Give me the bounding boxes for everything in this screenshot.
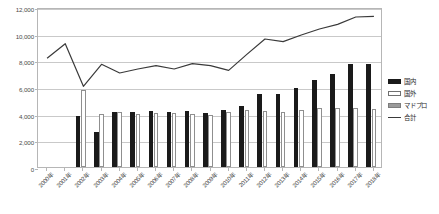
line-path-total	[47, 16, 374, 86]
legend-item-kokugai: 国外	[388, 88, 438, 99]
x-axis-tick	[337, 168, 338, 171]
x-axis-tick-label: 2001年	[54, 170, 73, 189]
legend-label: 国内	[404, 77, 416, 86]
legend-label: 合計	[404, 113, 416, 122]
x-axis: 2000年2001年2002年2003年2004年2005年2006年2007年…	[37, 170, 382, 214]
x-axis-tick-label: 2012年	[254, 170, 273, 189]
chart-container: 12,00010,0008,0006,0004,0002,0000 2000年2…	[0, 0, 439, 214]
x-axis-tick	[210, 168, 211, 171]
x-axis-tick-label: 2017年	[345, 170, 364, 189]
x-axis-tick-label: 2004年	[109, 170, 128, 189]
plot-area: 12,00010,0008,0006,0004,0002,0000	[37, 8, 382, 168]
chart-legend: 国内 国外 マドプロ 合計	[388, 76, 438, 124]
legend-swatch-bar-gray-icon	[388, 103, 401, 108]
x-axis-tick	[101, 168, 102, 171]
y-axis-tick-label: 2,000	[19, 139, 34, 146]
y-axis-tick-label: 12,000	[16, 6, 34, 13]
legend-item-kokunai: 国内	[388, 76, 438, 87]
line-series-layer	[38, 9, 381, 167]
y-axis-tick-label: 6,000	[19, 86, 34, 93]
x-axis-tick-label: 2015年	[308, 170, 327, 189]
y-axis-tick-label: 4,000	[19, 112, 34, 119]
x-axis-tick-label: 2013年	[272, 170, 291, 189]
x-axis-tick-label: 2007年	[163, 170, 182, 189]
x-axis-tick-label: 2018年	[363, 170, 382, 189]
total-line-chart	[38, 9, 383, 169]
y-axis-tick-label: 8,000	[19, 59, 34, 66]
x-axis-tick-label: 2014年	[290, 170, 309, 189]
x-axis-tick-label: 2010年	[218, 170, 237, 189]
x-axis-tick-label: 2002年	[72, 170, 91, 189]
x-axis-tick-label: 2009年	[200, 170, 219, 189]
legend-swatch-line-icon	[388, 115, 401, 120]
legend-item-madopro: マドプロ	[388, 100, 438, 111]
x-axis-tick-label: 2005年	[127, 170, 146, 189]
y-axis-tick-label: 10,000	[16, 32, 34, 39]
legend-swatch-bar-white-icon	[388, 91, 401, 96]
x-axis-tick-label: 2000年	[36, 170, 55, 189]
x-axis-tick-label: 2008年	[181, 170, 200, 189]
x-axis-tick-label: 2006年	[145, 170, 164, 189]
x-axis-tick-label: 2016年	[327, 170, 346, 189]
legend-label: 国外	[404, 89, 416, 98]
legend-swatch-bar-black-icon	[388, 79, 401, 84]
x-axis-tick-label: 2011年	[236, 170, 255, 189]
x-axis-tick-label: 2003年	[91, 170, 110, 189]
legend-item-total: 合計	[388, 112, 438, 123]
y-axis-tick-label: 0	[31, 166, 34, 173]
legend-label: マドプロ	[404, 101, 427, 110]
